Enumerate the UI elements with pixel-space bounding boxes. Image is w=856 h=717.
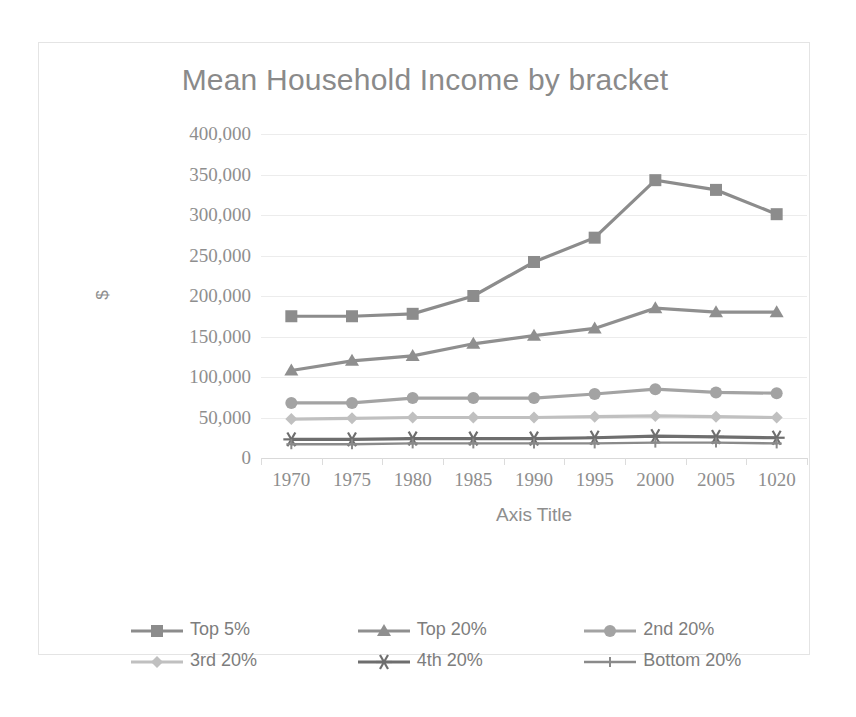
data-point-marker-plus bbox=[772, 438, 782, 448]
x-axis-title: Axis Title bbox=[261, 504, 807, 526]
legend-swatch-plus-icon bbox=[582, 652, 638, 672]
y-axis-tick-label: 200,000 bbox=[131, 285, 251, 307]
data-point-marker-diamond bbox=[710, 411, 722, 423]
data-point-marker-circle bbox=[285, 397, 297, 409]
legend-label: Top 20% bbox=[417, 619, 487, 642]
x-axis-tick-mark bbox=[443, 458, 444, 465]
data-point-marker-square bbox=[771, 208, 783, 220]
series-line bbox=[285, 174, 782, 322]
x-axis-tick-mark bbox=[564, 458, 565, 465]
data-point-marker-circle bbox=[407, 392, 419, 404]
data-point-marker-circle bbox=[589, 388, 601, 400]
legend-label: 4th 20% bbox=[417, 650, 483, 673]
x-axis-line bbox=[261, 458, 807, 459]
y-axis-tick-label: 250,000 bbox=[131, 245, 251, 267]
legend-label: 2nd 20% bbox=[643, 619, 714, 642]
data-point-marker-square bbox=[649, 174, 661, 186]
data-point-marker-diamond bbox=[467, 412, 479, 424]
data-point-marker-circle bbox=[346, 397, 358, 409]
legend-swatch-star-icon bbox=[356, 652, 412, 672]
chart-legend[interactable]: Top 5%Top 20%2nd 20%3rd 20%4th 20%Bottom… bbox=[129, 619, 809, 673]
x-axis-tick-label: 1970 bbox=[272, 469, 310, 491]
chart-title: Mean Household Income by bracket bbox=[39, 63, 811, 97]
legend-label: 3rd 20% bbox=[190, 650, 257, 673]
x-axis-tick-mark bbox=[504, 458, 505, 465]
x-axis-tick-label: 1995 bbox=[576, 469, 614, 491]
data-point-marker-circle bbox=[528, 392, 540, 404]
x-axis-tick-mark bbox=[322, 458, 323, 465]
x-axis-tick-label: 1980 bbox=[394, 469, 432, 491]
data-point-marker-square bbox=[407, 308, 419, 320]
data-point-marker-circle bbox=[771, 387, 783, 399]
data-point-marker-square bbox=[285, 310, 297, 322]
data-point-marker-circle bbox=[467, 392, 479, 404]
x-axis-tick-label: 2000 bbox=[636, 469, 674, 491]
data-point-marker-diamond bbox=[346, 412, 358, 424]
data-point-marker-diamond bbox=[528, 412, 540, 424]
x-axis-tick-label: 2005 bbox=[697, 469, 735, 491]
legend-item-3rd-20[interactable]: 3rd 20% bbox=[129, 650, 356, 673]
y-axis-tick-label: 50,000 bbox=[131, 407, 251, 429]
data-point-marker-square bbox=[346, 310, 358, 322]
y-axis-tick-label: 300,000 bbox=[131, 204, 251, 226]
x-axis-tick-label: 1990 bbox=[515, 469, 553, 491]
x-axis-tick-mark bbox=[746, 458, 747, 465]
data-point-marker-square bbox=[528, 256, 540, 268]
data-point-marker-plus bbox=[650, 438, 660, 448]
legend-item-2nd-20[interactable]: 2nd 20% bbox=[582, 619, 809, 642]
x-axis-tick-mark bbox=[686, 458, 687, 465]
data-point-marker-square bbox=[467, 290, 479, 302]
legend-item-bottom-20[interactable]: Bottom 20% bbox=[582, 650, 809, 673]
data-point-marker-diamond bbox=[589, 411, 601, 423]
chart-container[interactable]: Mean Household Income by bracket $ 400,0… bbox=[38, 42, 810, 655]
data-point-marker-square bbox=[589, 232, 601, 244]
data-point-marker-diamond bbox=[407, 412, 419, 424]
y-axis-tick-label: 0 bbox=[131, 447, 251, 469]
legend-item-top-5[interactable]: Top 5% bbox=[129, 619, 356, 642]
legend-item-4th-20[interactable]: 4th 20% bbox=[356, 650, 583, 673]
data-point-marker-plus bbox=[605, 657, 615, 667]
x-axis-tick-label: 1985 bbox=[454, 469, 492, 491]
y-axis-tick-label: 400,000 bbox=[131, 123, 251, 145]
data-point-marker-circle bbox=[710, 386, 722, 398]
x-axis-tick-mark bbox=[807, 458, 808, 465]
legend-label: Bottom 20% bbox=[643, 650, 741, 673]
y-axis-title: $ bbox=[93, 275, 113, 315]
legend-swatch-triangle-icon bbox=[356, 621, 412, 641]
y-axis-tick-label: 150,000 bbox=[131, 326, 251, 348]
legend-swatch-diamond-icon bbox=[129, 652, 185, 672]
data-point-marker-plus bbox=[711, 438, 721, 448]
data-point-marker-star bbox=[376, 655, 392, 669]
x-axis-tick-label: 1975 bbox=[333, 469, 371, 491]
data-point-marker-circle bbox=[604, 625, 616, 637]
x-axis-tick-mark bbox=[261, 458, 262, 465]
data-point-marker-plus bbox=[590, 438, 600, 448]
legend-swatch-square-icon bbox=[129, 621, 185, 641]
legend-swatch-circle-icon bbox=[582, 621, 638, 641]
data-point-marker-diamond bbox=[771, 412, 783, 424]
data-point-marker-circle bbox=[649, 383, 661, 395]
legend-item-top-20[interactable]: Top 20% bbox=[356, 619, 583, 642]
y-axis-tick-label: 350,000 bbox=[131, 164, 251, 186]
data-point-marker-diamond bbox=[649, 410, 661, 422]
x-axis-tick-mark bbox=[625, 458, 626, 465]
x-axis-tick-mark bbox=[382, 458, 383, 465]
screenshot-root: Mean Household Income by bracket $ 400,0… bbox=[0, 0, 856, 717]
data-point-marker-square bbox=[151, 625, 163, 637]
series-line bbox=[285, 410, 782, 425]
y-axis-tick-label: 100,000 bbox=[131, 366, 251, 388]
legend-label: Top 5% bbox=[190, 619, 250, 642]
series-line bbox=[285, 383, 782, 409]
series-layer bbox=[261, 134, 807, 458]
data-point-marker-diamond bbox=[151, 656, 163, 668]
data-point-marker-diamond bbox=[285, 413, 297, 425]
data-point-marker-square bbox=[710, 184, 722, 196]
x-axis-tick-label: 1020 bbox=[758, 469, 796, 491]
series-line bbox=[284, 301, 783, 375]
